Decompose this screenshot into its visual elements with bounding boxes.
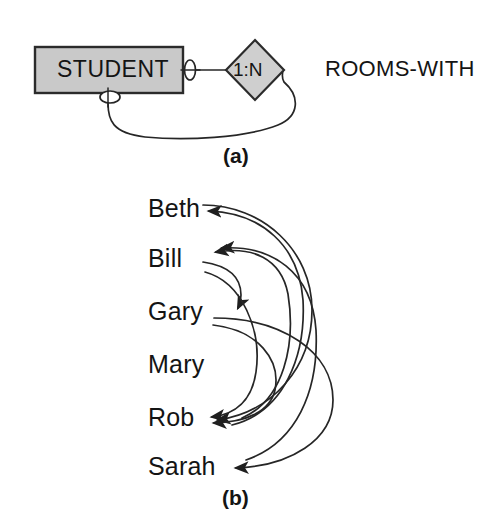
person-label-beth: Beth	[148, 196, 200, 221]
er-figure: STUDENT 1:N ROOMS-WITH (a) Beth Bill Gar…	[0, 0, 504, 525]
arc-bill-to-gary	[203, 262, 241, 308]
person-label-bill: Bill	[148, 246, 182, 271]
person-label-rob: Rob	[148, 405, 194, 430]
caption-part-b: (b)	[222, 487, 249, 508]
arc-beth-to-rob	[203, 205, 312, 420]
part-b-graphics	[0, 0, 504, 525]
person-label-gary: Gary	[148, 299, 203, 324]
arc-gary-to-rob	[213, 325, 276, 423]
arc-bill-to-rob	[205, 272, 257, 417]
person-label-mary: Mary	[148, 352, 204, 377]
person-label-sarah: Sarah	[148, 454, 216, 479]
